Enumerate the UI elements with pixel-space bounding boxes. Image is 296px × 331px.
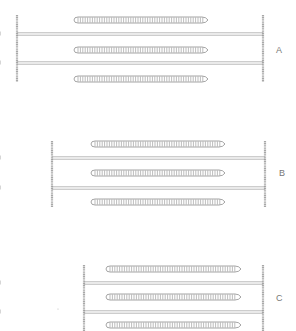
speck-mark (57, 308, 58, 309)
thick-filament-b (91, 199, 225, 205)
thick-filament-c (106, 266, 241, 272)
thick-filament-a (74, 17, 208, 23)
thick-filament-c (106, 294, 241, 300)
thick-filament-hatching-a (78, 18, 203, 23)
thin-filament-b (52, 157, 265, 159)
thick-filament-hatching-b (95, 200, 220, 205)
panel-label-b: B (279, 168, 285, 178)
thin-filament-c (84, 311, 263, 313)
thick-filament-hatching-a (78, 48, 203, 53)
thick-filament-hatching-b (95, 142, 220, 147)
thin-filament-c (84, 282, 263, 284)
thick-filament-b (91, 141, 225, 147)
thick-filament-hatching-c (110, 295, 235, 300)
sarcomere-diagram (0, 0, 296, 331)
thick-filament-hatching-a (78, 77, 203, 82)
thick-filament-b (91, 170, 225, 176)
thin-filament-a (17, 33, 263, 35)
thin-filament-b (52, 187, 265, 189)
thick-filament-hatching-c (110, 267, 235, 272)
thin-filament-a (17, 62, 263, 64)
thick-filament-a (74, 47, 208, 53)
thick-filament-c (106, 322, 241, 328)
thick-filament-hatching-b (95, 171, 220, 176)
thick-filament-hatching-c (110, 323, 235, 328)
panel-label-a: A (276, 45, 282, 55)
panel-label-c: C (276, 293, 283, 303)
thick-filament-a (74, 76, 208, 82)
